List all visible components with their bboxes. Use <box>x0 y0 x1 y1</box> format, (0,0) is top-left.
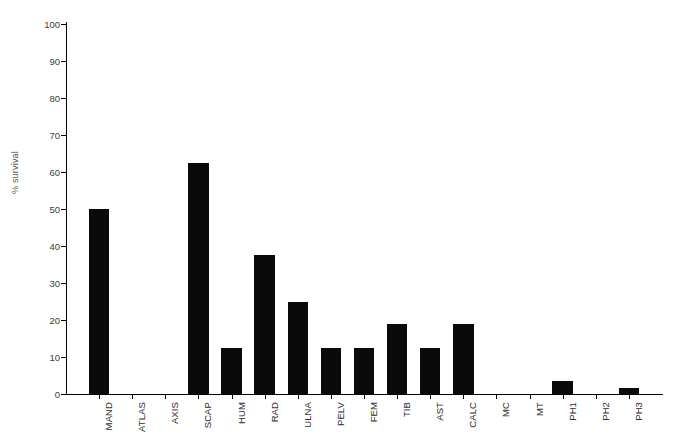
x-axis-tick-label: MAND <box>103 402 114 430</box>
bar <box>619 388 640 394</box>
y-axis-tick-mark <box>61 98 66 99</box>
x-axis-tick-mark <box>198 395 199 399</box>
x-axis-tick-label: PELV <box>335 402 346 426</box>
y-axis-tick-mark <box>61 394 66 395</box>
bar <box>387 324 408 394</box>
y-axis-tick-label: 20 <box>30 315 60 326</box>
y-axis-tick-label: 50 <box>30 204 60 215</box>
x-axis-tick-label: ATLAS <box>136 402 147 432</box>
x-axis-tick-label: TIB <box>401 402 412 417</box>
x-axis-tick-label: RAD <box>269 402 280 422</box>
x-axis-tick-mark <box>331 395 332 399</box>
x-axis-tick-label: HUM <box>236 402 247 424</box>
y-axis-tick-label: 10 <box>30 352 60 363</box>
y-axis-tick-label: 80 <box>30 93 60 104</box>
y-axis-tick-label: 60 <box>30 167 60 178</box>
bar <box>552 381 573 394</box>
x-axis-tick-mark <box>463 395 464 399</box>
x-axis-tick-label: PH3 <box>633 402 644 421</box>
x-axis-tick-mark <box>232 395 233 399</box>
x-axis-tick-label: SCAP <box>202 402 213 428</box>
y-axis-tick-mark <box>61 24 66 25</box>
y-axis-tick-mark <box>61 61 66 62</box>
y-axis-tick-mark <box>61 135 66 136</box>
x-axis-tick-mark <box>364 395 365 399</box>
y-axis-tick-label: 70 <box>30 130 60 141</box>
bar <box>188 163 209 394</box>
x-axis-tick-mark <box>397 395 398 399</box>
plot-area <box>66 24 662 394</box>
y-axis-tick-mark <box>61 283 66 284</box>
x-axis-tick-mark <box>265 395 266 399</box>
x-axis-tick-mark <box>563 395 564 399</box>
y-axis-tick-mark <box>61 357 66 358</box>
x-axis-tick-label: CALC <box>467 402 478 428</box>
x-axis-tick-mark <box>298 395 299 399</box>
x-axis-tick-mark <box>629 395 630 399</box>
x-axis-tick-label: AXIS <box>169 402 180 424</box>
bar <box>89 209 110 394</box>
x-axis-tick-mark <box>596 395 597 399</box>
y-axis-tick-label: 30 <box>30 278 60 289</box>
y-axis-tick-labels: 0102030405060708090100 <box>26 0 60 442</box>
bar <box>354 348 375 394</box>
x-axis-tick-mark <box>165 395 166 399</box>
y-axis-tick-label: 0 <box>30 389 60 400</box>
y-axis-label: % survival <box>10 74 20 194</box>
x-axis-tick-label: FEM <box>368 402 379 422</box>
bar <box>453 324 474 394</box>
y-axis-tick-mark <box>61 172 66 173</box>
x-axis-tick-mark <box>99 395 100 399</box>
x-axis-tick-label: MC <box>500 402 511 417</box>
x-axis-tick-label: ULNA <box>302 402 313 428</box>
y-axis-tick-label: 90 <box>30 56 60 67</box>
x-axis-tick-label: PH2 <box>600 402 611 421</box>
bar <box>254 255 275 394</box>
x-axis-tick-mark <box>530 395 531 399</box>
bar <box>288 302 309 395</box>
y-axis-tick-mark <box>61 320 66 321</box>
x-axis-tick-mark <box>430 395 431 399</box>
x-axis-tick-mark <box>496 395 497 399</box>
bar <box>420 348 441 394</box>
x-axis-tick-label: PH1 <box>567 402 578 421</box>
y-axis-tick-mark <box>61 246 66 247</box>
x-axis-tick-mark <box>132 395 133 399</box>
y-axis-tick-mark <box>61 209 66 210</box>
bar <box>221 348 242 394</box>
bar-chart-figure: % survival 0102030405060708090100 MANDAT… <box>0 0 678 442</box>
bar <box>321 348 342 394</box>
x-axis-tick-label: AST <box>434 402 445 421</box>
y-axis-tick-label: 100 <box>30 19 60 30</box>
x-axis-tick-label: MT <box>534 402 545 416</box>
y-axis-tick-label: 40 <box>30 241 60 252</box>
